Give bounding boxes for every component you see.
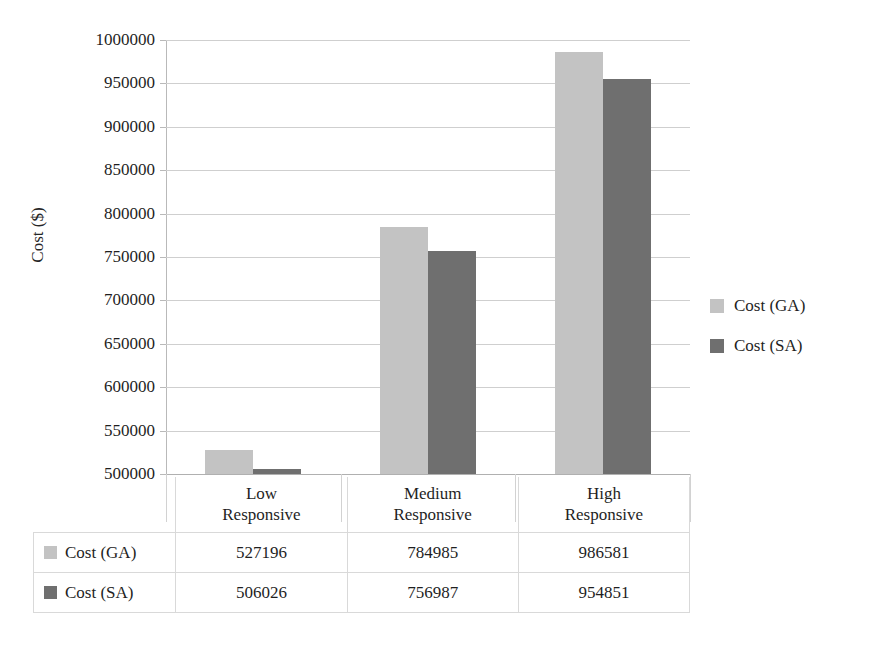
table-value-cell: 986581 — [518, 533, 689, 573]
category-separator — [690, 474, 691, 522]
bar-low-responsive-ga — [205, 450, 253, 474]
y-axis-tick-label: 850000 — [104, 160, 155, 180]
data-table: LowResponsiveMediumResponsiveHighRespons… — [33, 477, 690, 613]
table-row: Cost (SA)506026756987954851 — [34, 573, 690, 613]
y-axis-tick — [160, 344, 166, 345]
table-value-cell: 527196 — [176, 533, 347, 573]
y-axis-tick-label: 600000 — [104, 377, 155, 397]
table-series-label: Cost (GA) — [65, 543, 136, 562]
bar-chart-figure: Cost ($) 1000000950000900000850000800000… — [0, 0, 871, 651]
y-axis-tick-label: 700000 — [104, 290, 155, 310]
y-axis-tick — [160, 214, 166, 215]
table-header-row: LowResponsiveMediumResponsiveHighRespons… — [34, 477, 690, 533]
gridline — [166, 474, 690, 475]
y-axis-tick-label: 750000 — [104, 247, 155, 267]
table-value-cell: 756987 — [347, 573, 518, 613]
bar-high-responsive-ga — [555, 52, 603, 474]
table-column-header: LowResponsive — [176, 477, 347, 533]
table-series-cell: Cost (SA) — [34, 573, 176, 613]
y-axis-tick-label: 950000 — [104, 73, 155, 93]
y-axis-tick-label: 1000000 — [96, 30, 156, 50]
y-axis-tick — [160, 387, 166, 388]
y-axis-tick — [160, 257, 166, 258]
column-header-line2: Responsive — [176, 505, 346, 526]
bar-low-responsive-sa — [253, 469, 301, 474]
y-axis-tick — [160, 127, 166, 128]
y-axis-tick — [160, 40, 166, 41]
y-axis-tick — [160, 170, 166, 171]
y-axis-tick-label: 650000 — [104, 334, 155, 354]
table-corner-cell — [34, 477, 176, 533]
y-axis-title: Cost ($) — [28, 175, 48, 295]
column-header-line1: High — [519, 484, 689, 505]
chart-legend: Cost (GA)Cost (SA) — [710, 286, 860, 366]
table-row: Cost (GA)527196784985986581 — [34, 533, 690, 573]
table-swatch-icon — [44, 546, 57, 559]
column-header-line2: Responsive — [348, 505, 518, 526]
y-axis-tick — [160, 300, 166, 301]
legend-item-ga[interactable]: Cost (GA) — [710, 286, 860, 326]
plot-area: 1000000950000900000850000800000750000700… — [166, 40, 690, 474]
y-axis-tick-label: 900000 — [104, 117, 155, 137]
legend-swatch-icon — [710, 299, 724, 313]
y-axis-tick-label: 550000 — [104, 421, 155, 441]
table-series-cell: Cost (GA) — [34, 533, 176, 573]
table-swatch-icon — [44, 586, 57, 599]
y-axis-tick — [160, 83, 166, 84]
table-column-header: HighResponsive — [518, 477, 689, 533]
legend-item-label: Cost (SA) — [734, 336, 802, 356]
bar-medium-responsive-ga — [380, 227, 428, 474]
y-axis-tick — [160, 431, 166, 432]
column-header-line1: Low — [176, 484, 346, 505]
legend-item-label: Cost (GA) — [734, 296, 805, 316]
table-series-label: Cost (SA) — [65, 583, 133, 602]
bar-high-responsive-sa — [603, 79, 651, 474]
column-header-line1: Medium — [348, 484, 518, 505]
gridline — [166, 40, 690, 41]
legend-swatch-icon — [710, 339, 724, 353]
legend-item-sa[interactable]: Cost (SA) — [710, 326, 860, 366]
bar-medium-responsive-sa — [428, 251, 476, 474]
table-column-header: MediumResponsive — [347, 477, 518, 533]
table-value-cell: 506026 — [176, 573, 347, 613]
y-axis-tick-label: 800000 — [104, 204, 155, 224]
table-value-cell: 784985 — [347, 533, 518, 573]
column-header-line2: Responsive — [519, 505, 689, 526]
table-value-cell: 954851 — [518, 573, 689, 613]
